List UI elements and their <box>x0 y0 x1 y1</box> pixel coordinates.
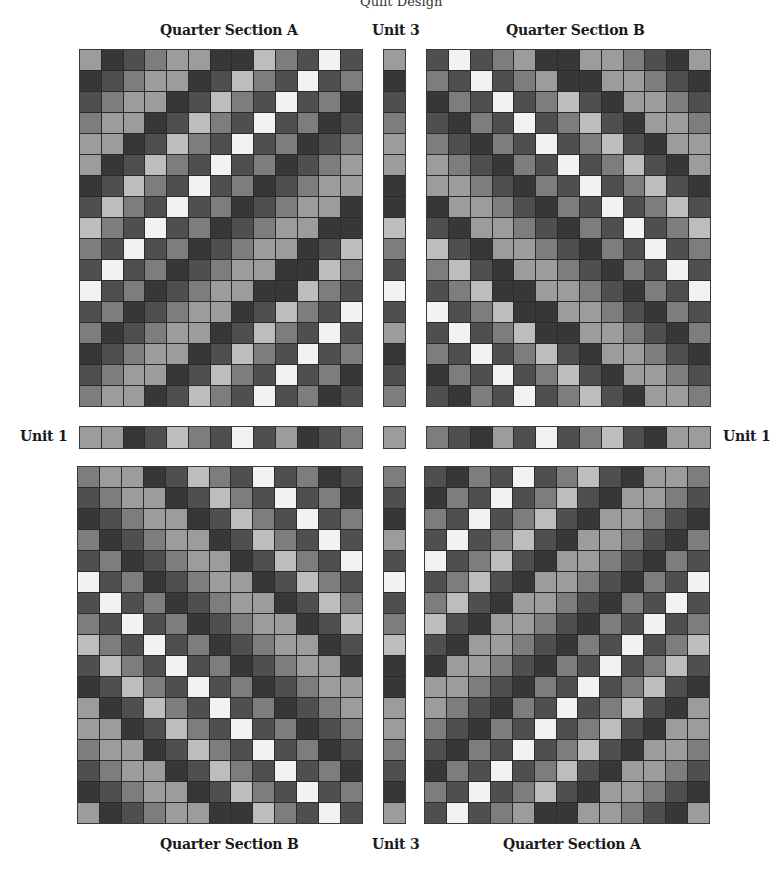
quilt-cell <box>341 365 362 385</box>
quilt-cell <box>122 551 143 571</box>
quilt-cell <box>558 197 579 217</box>
quilt-cell <box>211 92 232 112</box>
quilt-cell <box>535 551 556 571</box>
quilt-cell <box>275 614 296 634</box>
quilt-cell <box>319 218 340 238</box>
quilt-cell <box>666 467 687 487</box>
quilt-cell <box>449 71 470 91</box>
quilt-cell <box>427 92 448 112</box>
quilt-cell <box>449 344 470 364</box>
quilt-cell <box>276 386 297 406</box>
quilt-cell <box>210 572 231 592</box>
quilt-cell <box>253 530 274 550</box>
quilt-cell <box>580 155 601 175</box>
quilt-cell <box>384 155 405 175</box>
quilt-cell <box>145 323 166 343</box>
quilt-cell <box>145 281 166 301</box>
quilt-cell <box>449 176 470 196</box>
quilt-cell <box>341 323 362 343</box>
quilt-cell <box>253 635 274 655</box>
quilt-cell <box>622 572 643 592</box>
quilt-cell <box>689 176 710 196</box>
quilt-cell <box>600 782 621 802</box>
quilt-cell <box>188 551 209 571</box>
quilt-cell <box>536 134 557 154</box>
quilt-cell <box>145 176 166 196</box>
quilt-cell <box>297 677 318 697</box>
quilt-cell <box>666 614 687 634</box>
quilt-cell <box>144 803 165 823</box>
quilt-cell <box>297 614 318 634</box>
quilt-cell <box>447 719 468 739</box>
quilt-cell <box>211 197 232 217</box>
quilt-cell <box>341 509 362 529</box>
quilt-cell <box>210 488 231 508</box>
quilt-cell <box>124 427 145 448</box>
quilt-cell <box>276 302 297 322</box>
quilt-cell <box>580 323 601 343</box>
quilt-cell <box>469 719 490 739</box>
quilt-cell <box>211 386 232 406</box>
quilt-cell <box>144 761 165 781</box>
quilt-cell <box>688 782 709 802</box>
quilt-cell <box>319 719 340 739</box>
quilt-cell <box>580 50 601 70</box>
quilt-cell <box>493 113 514 133</box>
quilt-cell <box>447 488 468 508</box>
quilt-cell <box>341 302 362 322</box>
quilt-cell <box>471 302 492 322</box>
quilt-cell <box>491 656 512 676</box>
quilt-cell <box>232 176 253 196</box>
quilt-cell <box>666 803 687 823</box>
quilt-cell <box>558 92 579 112</box>
quilt-cell <box>211 134 232 154</box>
quilt-cell <box>449 260 470 280</box>
quilt-cell <box>557 530 578 550</box>
quilt-cell <box>600 740 621 760</box>
quilt-cell <box>688 698 709 718</box>
quilt-cell <box>167 92 188 112</box>
quilt-cell <box>447 509 468 529</box>
quilt-cell <box>600 509 621 529</box>
quilt-cell <box>469 572 490 592</box>
quilt-cell <box>231 467 252 487</box>
quilt-cell <box>341 71 362 91</box>
quilt-cell <box>600 719 621 739</box>
quilt-cell <box>602 155 623 175</box>
quilt-cell <box>124 344 145 364</box>
quilt-cell <box>100 719 121 739</box>
quilt-cell <box>80 50 101 70</box>
quilt-cell <box>122 635 143 655</box>
quilt-cell <box>558 176 579 196</box>
quilt-cell <box>689 302 710 322</box>
quilt-cell <box>211 365 232 385</box>
quilt-cell <box>188 803 209 823</box>
quilt-cell <box>231 740 252 760</box>
quilt-cell <box>471 281 492 301</box>
quilt-cell <box>210 467 231 487</box>
quilt-cell <box>666 698 687 718</box>
quilt-cell <box>188 635 209 655</box>
quilt-cell <box>536 113 557 133</box>
quilt-cell <box>493 302 514 322</box>
quilt-cell <box>189 113 210 133</box>
quilt-cell <box>449 113 470 133</box>
quilt-cell <box>384 782 405 802</box>
quilt-cell <box>645 113 666 133</box>
quilt-cell <box>231 719 252 739</box>
quilt-cell <box>124 71 145 91</box>
quilt-cell <box>341 551 362 571</box>
quilt-cell <box>231 635 252 655</box>
quilt-cell <box>122 572 143 592</box>
quilt-cell <box>535 593 556 613</box>
quilt-cell <box>666 782 687 802</box>
quilt-cell <box>122 509 143 529</box>
quilt-cell <box>689 260 710 280</box>
quilt-cell <box>427 386 448 406</box>
quilt-cell <box>188 740 209 760</box>
quilt-cell <box>689 134 710 154</box>
quilt-cell <box>600 467 621 487</box>
quilt-cell <box>80 323 101 343</box>
quilt-cell <box>622 677 643 697</box>
quilt-cell <box>449 365 470 385</box>
